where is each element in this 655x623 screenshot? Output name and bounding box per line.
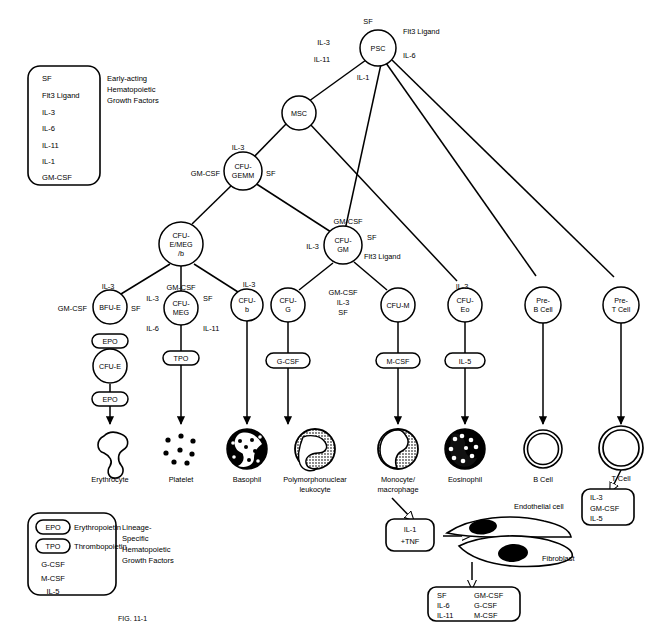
- pill-mcsf[interactable]: M-CSF: [376, 353, 420, 368]
- tcell-out-1: IL-3: [590, 493, 603, 502]
- factor-psc-right-top: Flt3 Ligand: [403, 27, 440, 36]
- legend-top-item-1: Flt3 Ligand: [42, 91, 80, 100]
- factor-psc-top: SF: [363, 17, 373, 26]
- legend-bottom-item-3: M-CSF: [41, 574, 65, 583]
- il1-tnf-box[interactable]: IL-1 +TNF: [386, 519, 434, 551]
- cell-eosinophil: [445, 429, 485, 469]
- label-monocyte-1: Monocyte/: [381, 475, 416, 484]
- progenitor-circles: [93, 30, 639, 383]
- factor-cfub-top: IL-3: [243, 280, 256, 289]
- node-cfu-gm-label-2: GM: [337, 245, 349, 254]
- factor-gemm-left: GM-CSF: [191, 169, 221, 178]
- stromal-out-c2-1: GM-CSF: [474, 591, 504, 600]
- edge-factor-labels: SF Flt3 Ligand IL-6 IL-3 IL-11 IL-1 IL-3…: [58, 17, 469, 333]
- pill-il5-label: IL-5: [459, 357, 471, 366]
- label-basophil: Basophil: [233, 475, 262, 484]
- stromal-output-box[interactable]: SF IL-6 IL-11 GM-CSF G-CSF M-CSF: [428, 587, 520, 621]
- label-eosinophil: Eosinophil: [448, 475, 482, 484]
- cell-b-cell: [524, 430, 562, 468]
- factor-gm-left: IL-3: [306, 242, 319, 251]
- pill-tpo-label: TPO: [174, 354, 189, 363]
- legend-epo-pill: EPO: [36, 520, 70, 534]
- tcell-output-box[interactable]: IL-3 GM-CSF IL-5: [582, 489, 634, 525]
- factor-meg-lower-right: IL-11: [203, 324, 219, 333]
- legend-top-item-0: SF: [42, 74, 52, 83]
- factor-bfu-top: IL-3: [102, 282, 115, 291]
- endothelial-cell-shape: [447, 517, 571, 537]
- node-cfu-e-label: CFU-E: [99, 362, 121, 371]
- il1-tnf-line-2: +TNF: [401, 537, 420, 546]
- node-cfu-gemm-label-2: GEMM: [232, 171, 254, 180]
- factor-gm-top: GM-CSF: [333, 217, 363, 226]
- diagram-canvas: PSC MSC CFU- GEMM CFU- E/MEG /b BFU-E CF…: [0, 0, 655, 623]
- legend-top-item-6: GM-CSF: [42, 173, 72, 182]
- node-pre-b-label-2: B Cell: [533, 305, 553, 314]
- node-cfu-b-label-2: b: [245, 305, 249, 314]
- legend-early-acting[interactable]: SF Flt3 Ligand IL-3 IL-6 IL-11 IL-1 GM-C…: [28, 66, 159, 185]
- legend-tpo-pill: TPO: [36, 539, 70, 553]
- pill-gcsf[interactable]: G-CSF: [266, 353, 310, 368]
- legend-top-item-3: IL-6: [42, 124, 55, 133]
- label-fibroblast: Fibroblast: [542, 554, 574, 563]
- pill-epo-2-label: EPO: [102, 395, 118, 404]
- factor-eo-top: IL-3: [456, 282, 469, 291]
- legend-bottom-caption-3: Growth Factors: [122, 556, 174, 565]
- mature-cell-labels: Erythrocyte Platelet Basophil Polymorpho…: [91, 474, 631, 494]
- pill-epo-1[interactable]: EPO: [92, 334, 128, 348]
- node-cfu-meg-label-2: MEG: [173, 308, 190, 317]
- cell-monocyte-macrophage: [378, 429, 418, 469]
- factor-gm-mid-2: IL-3: [337, 298, 350, 307]
- legend-lineage-specific[interactable]: EPO TPO Erythropoietin Thrombopoietin G-…: [28, 513, 174, 596]
- factor-psc-right-bottom: IL-6: [403, 51, 416, 60]
- pill-mcsf-label: M-CSF: [387, 357, 410, 366]
- il1-tnf-line-1: IL-1: [404, 525, 417, 534]
- stromal-out-c1-1: SF: [437, 591, 447, 600]
- node-cfu-b-label-1: CFU-: [238, 296, 256, 305]
- label-b-cell: B Cell: [533, 475, 553, 484]
- legend-top-item-4: IL-11: [42, 141, 59, 150]
- legend-tpo-name: Thrombopoietin: [74, 542, 127, 551]
- stromal-out-c1-3: IL-11: [437, 611, 453, 620]
- label-erythrocyte: Erythrocyte: [91, 475, 128, 484]
- pill-tpo[interactable]: TPO: [163, 351, 199, 365]
- factor-meg-lower-left: IL-6: [146, 324, 159, 333]
- factor-meg-top: GM-CSF: [166, 283, 196, 292]
- pill-il5[interactable]: IL-5: [445, 353, 485, 368]
- legend-bottom-caption-0: Lineage-: [122, 523, 152, 532]
- label-endothelial-cell: Endothelial cell: [514, 502, 564, 511]
- pill-gcsf-label: G-CSF: [277, 357, 300, 366]
- label-platelet: Platelet: [169, 475, 194, 484]
- tcell-out-2: GM-CSF: [590, 504, 620, 513]
- legend-top-item-5: IL-1: [42, 157, 55, 166]
- node-cfu-g-label-2: G: [285, 305, 291, 314]
- node-cfu-m-label: CFU-M: [386, 301, 409, 310]
- legend-tpo-symbol: TPO: [46, 542, 61, 551]
- legend-bottom-caption-2: Hematopoietic: [122, 545, 171, 554]
- factor-gm-mid-1: GM-CSF: [328, 288, 358, 297]
- factor-meg-left: IL-3: [146, 294, 159, 303]
- label-pmn-1: Polymorphonuclear: [283, 475, 347, 484]
- stromal-out-c2-2: G-CSF: [474, 601, 497, 610]
- node-pre-t-label-2: T Cell: [612, 305, 631, 314]
- cell-platelet: [163, 433, 195, 465]
- figure-caption: FIG. 11-1: [118, 615, 147, 622]
- node-cfu-gemm-label-1: CFU-: [234, 162, 252, 171]
- pill-epo-2[interactable]: EPO: [92, 392, 128, 406]
- legend-top-item-2: IL-3: [42, 108, 55, 117]
- pill-epo-1-label: EPO: [102, 337, 118, 346]
- hematopoiesis-figure: PSC MSC CFU- GEMM CFU- E/MEG /b BFU-E CF…: [0, 0, 655, 623]
- factor-bfu-left: GM-CSF: [58, 304, 88, 313]
- factor-bfu-right: SF: [131, 304, 141, 313]
- legend-top-caption-0: Early-acting: [107, 74, 147, 83]
- legend-bottom-item-4: IL-5: [46, 587, 59, 596]
- cell-polymorphonuclear-leukocyte: [295, 429, 335, 471]
- factor-psc-bottom: IL-1: [357, 73, 370, 82]
- factor-gemm-top: IL-3: [232, 143, 245, 152]
- node-cfu-meg-label-1: CFU-: [172, 299, 190, 308]
- factor-gemm-right: SF: [266, 169, 276, 178]
- factor-gm-right-top: SF: [367, 233, 377, 242]
- factor-gm-mid-3: SF: [338, 308, 348, 317]
- legend-epo-symbol: EPO: [45, 523, 61, 532]
- node-cfu-eo-label-2: Eo: [461, 305, 470, 314]
- legend-bottom-item-2: G-CSF: [41, 560, 65, 569]
